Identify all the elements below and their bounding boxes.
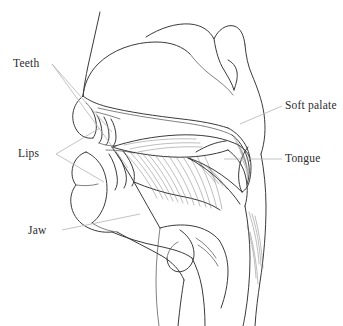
- label-lips: Lips: [18, 147, 39, 159]
- tongue: [112, 135, 250, 228]
- figure-canvas: Teeth Lips Jaw Soft palate Tongue: [0, 0, 343, 326]
- lower-teeth: [106, 150, 134, 190]
- head-profile-outline: [83, 12, 245, 96]
- label-tongue: Tongue: [285, 152, 321, 164]
- leader-line-soft-palate: [240, 106, 282, 124]
- leader-line-lips-lower: [56, 154, 104, 182]
- leader-line-teeth-lower: [52, 64, 128, 168]
- neck-contour: [156, 228, 205, 326]
- label-soft-palate: Soft palate: [285, 99, 337, 111]
- larynx-and-hyoid: [160, 225, 228, 308]
- hard-palate: [83, 96, 232, 135]
- leader-line-teeth-upper: [52, 64, 112, 132]
- label-jaw: Jaw: [28, 224, 47, 236]
- label-teeth: Teeth: [13, 57, 39, 69]
- nasopharynx-region: [190, 39, 265, 154]
- tongue-muscle-striations: [124, 152, 222, 209]
